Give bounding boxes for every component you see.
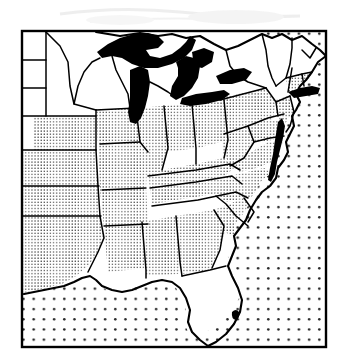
scan-noise	[60, 9, 300, 25]
state-alabama	[142, 216, 182, 276]
map-figure	[0, 0, 348, 364]
map-svg	[0, 0, 348, 364]
state-indiana	[164, 104, 196, 152]
state-mississippi	[104, 222, 146, 272]
state-kansas	[22, 150, 98, 186]
state-nebraska-south	[34, 116, 96, 150]
state-arkansas	[100, 188, 148, 226]
state-oklahoma	[22, 186, 100, 216]
